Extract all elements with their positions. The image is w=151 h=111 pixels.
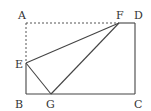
label-G: G <box>46 98 55 111</box>
label-E: E <box>15 58 23 71</box>
segment-EF <box>26 23 119 63</box>
label-D: D <box>134 9 143 22</box>
segment-EG <box>26 63 51 94</box>
segment-FG <box>51 23 119 94</box>
label-B: B <box>15 98 23 111</box>
label-A: A <box>17 9 27 22</box>
label-F: F <box>116 9 124 22</box>
label-C: C <box>134 98 142 111</box>
geometry-figure: A F D E B G C <box>0 0 151 111</box>
